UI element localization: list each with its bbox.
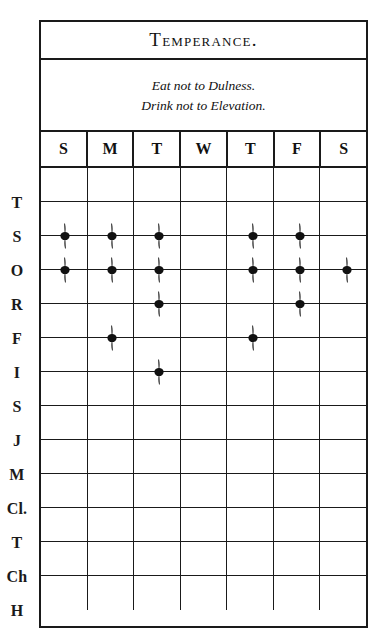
grid-cell-r7-c3[interactable] <box>181 406 228 439</box>
page-title: Temperance. <box>149 29 257 51</box>
grid-cell-r9-c2[interactable] <box>134 474 181 507</box>
grid-cell-r8-c5[interactable] <box>274 440 321 473</box>
grid-cell-r1-c3[interactable] <box>181 202 228 235</box>
grid-cell-r11-c6[interactable] <box>320 542 366 575</box>
grid-cell-r6-c5[interactable] <box>274 372 321 405</box>
table-row <box>41 440 366 474</box>
grid-cell-r0-c0[interactable] <box>41 168 88 201</box>
grid-cell-r2-c0[interactable] <box>41 236 88 269</box>
grid-cell-r2-c2[interactable] <box>134 236 181 269</box>
grid-cell-r12-c4[interactable] <box>227 576 274 610</box>
grid-cell-r0-c5[interactable] <box>274 168 321 201</box>
grid-cell-r5-c6[interactable] <box>320 338 366 371</box>
grid-cell-r6-c6[interactable] <box>320 372 366 405</box>
grid-cell-r3-c0[interactable] <box>41 270 88 303</box>
grid-cell-r10-c4[interactable] <box>227 508 274 541</box>
grid-cell-r5-c5[interactable] <box>274 338 321 371</box>
grid-cell-r4-c3[interactable] <box>181 304 228 337</box>
grid-cell-r3-c2[interactable] <box>134 270 181 303</box>
grid-cell-r8-c2[interactable] <box>134 440 181 473</box>
grid-cell-r4-c2[interactable] <box>134 304 181 337</box>
grid-cell-r7-c0[interactable] <box>41 406 88 439</box>
grid-cell-r0-c1[interactable] <box>88 168 135 201</box>
grid-cell-r5-c2[interactable] <box>134 338 181 371</box>
grid-cell-r4-c4[interactable] <box>227 304 274 337</box>
grid-cell-r6-c3[interactable] <box>181 372 228 405</box>
grid-cell-r11-c1[interactable] <box>88 542 135 575</box>
grid-cell-r6-c2[interactable] <box>134 372 181 405</box>
grid-cell-r3-c5[interactable] <box>274 270 321 303</box>
grid-cell-r0-c6[interactable] <box>320 168 366 201</box>
grid-cell-r4-c1[interactable] <box>88 304 135 337</box>
grid-cell-r10-c1[interactable] <box>88 508 135 541</box>
grid-cell-r2-c6[interactable] <box>320 236 366 269</box>
grid-cell-r1-c4[interactable] <box>227 202 274 235</box>
grid-cell-r3-c6[interactable] <box>320 270 366 303</box>
row-label-6: S <box>0 390 34 424</box>
grid-cell-r12-c1[interactable] <box>88 576 135 610</box>
grid-cell-r12-c5[interactable] <box>274 576 321 610</box>
grid-cell-r0-c3[interactable] <box>181 168 228 201</box>
grid-cell-r7-c5[interactable] <box>274 406 321 439</box>
grid-cell-r7-c4[interactable] <box>227 406 274 439</box>
grid-cell-r8-c4[interactable] <box>227 440 274 473</box>
grid-cell-r1-c1[interactable] <box>88 202 135 235</box>
grid-cell-r12-c0[interactable] <box>41 576 88 610</box>
grid-cell-r5-c0[interactable] <box>41 338 88 371</box>
grid-cell-r6-c0[interactable] <box>41 372 88 405</box>
grid-cell-r2-c5[interactable] <box>274 236 321 269</box>
grid-cell-r7-c2[interactable] <box>134 406 181 439</box>
grid-cell-r10-c2[interactable] <box>134 508 181 541</box>
grid-cell-r2-c3[interactable] <box>181 236 228 269</box>
grid-cell-r1-c0[interactable] <box>41 202 88 235</box>
grid-cell-r10-c0[interactable] <box>41 508 88 541</box>
grid-cell-r4-c0[interactable] <box>41 304 88 337</box>
grid-cell-r4-c5[interactable] <box>274 304 321 337</box>
grid-cell-r11-c4[interactable] <box>227 542 274 575</box>
grid-cell-r2-c1[interactable] <box>88 236 135 269</box>
grid-cell-r1-c6[interactable] <box>320 202 366 235</box>
grid-cell-r7-c1[interactable] <box>88 406 135 439</box>
grid-cell-r8-c1[interactable] <box>88 440 135 473</box>
day-header-3: W <box>181 132 228 166</box>
grid-cell-r7-c6[interactable] <box>320 406 366 439</box>
row-label-3: R <box>0 288 34 322</box>
grid-cell-r9-c1[interactable] <box>88 474 135 507</box>
grid-cell-r3-c4[interactable] <box>227 270 274 303</box>
grid-cell-r11-c0[interactable] <box>41 542 88 575</box>
grid-cell-r12-c6[interactable] <box>320 576 366 610</box>
grid-cell-r5-c4[interactable] <box>227 338 274 371</box>
grid-cell-r10-c6[interactable] <box>320 508 366 541</box>
row-label-2: O <box>0 254 34 288</box>
grid-cell-r1-c5[interactable] <box>274 202 321 235</box>
table-row <box>41 406 366 440</box>
grid-cell-r10-c3[interactable] <box>181 508 228 541</box>
grid-cell-r9-c5[interactable] <box>274 474 321 507</box>
grid-cell-r12-c3[interactable] <box>181 576 228 610</box>
grid-cell-r4-c6[interactable] <box>320 304 366 337</box>
grid-cell-r8-c6[interactable] <box>320 440 366 473</box>
grid-cell-r6-c4[interactable] <box>227 372 274 405</box>
grid-cell-r3-c1[interactable] <box>88 270 135 303</box>
grid-cell-r3-c3[interactable] <box>181 270 228 303</box>
grid-cell-r11-c2[interactable] <box>134 542 181 575</box>
grid-cell-r9-c6[interactable] <box>320 474 366 507</box>
grid-cell-r6-c1[interactable] <box>88 372 135 405</box>
grid-cell-r2-c4[interactable] <box>227 236 274 269</box>
grid-cell-r8-c3[interactable] <box>181 440 228 473</box>
grid-cell-r11-c3[interactable] <box>181 542 228 575</box>
grid-cell-r0-c2[interactable] <box>134 168 181 201</box>
grid-cell-r9-c3[interactable] <box>181 474 228 507</box>
grid-cell-r10-c5[interactable] <box>274 508 321 541</box>
grid-cell-r5-c3[interactable] <box>181 338 228 371</box>
grid-cell-r9-c0[interactable] <box>41 474 88 507</box>
grid-cell-r11-c5[interactable] <box>274 542 321 575</box>
grid-cell-r0-c4[interactable] <box>227 168 274 201</box>
row-label-5: I <box>0 356 34 390</box>
grid-cell-r1-c2[interactable] <box>134 202 181 235</box>
day-header-row: SMTWTFS <box>41 132 366 168</box>
grid-cell-r12-c2[interactable] <box>134 576 181 610</box>
grid-cell-r8-c0[interactable] <box>41 440 88 473</box>
grid-cell-r5-c1[interactable] <box>88 338 135 371</box>
grid-cell-r9-c4[interactable] <box>227 474 274 507</box>
